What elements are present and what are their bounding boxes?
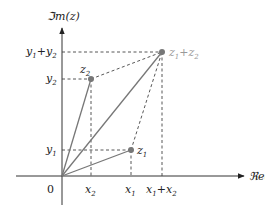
complex-plane-diagram: ℑm(z) ℜe(z) 0 z2 z1 z1+z2 x2 x1 x1+x2 y1… [0, 0, 265, 212]
label-z1: z1 [136, 144, 147, 159]
x-axis-label: ℜe(z) [249, 170, 265, 183]
x-tick-x1-plus-x2: x1+x2 [146, 183, 177, 198]
point-z1 [128, 147, 134, 153]
y-tick-y1: y1 [45, 143, 57, 158]
y-tick-y1-plus-y2: y1+y2 [25, 45, 57, 60]
label-z2: z2 [79, 63, 91, 78]
point-z1-plus-z2 [159, 49, 165, 55]
y-tick-y2: y2 [45, 72, 57, 87]
vector-z2 [62, 79, 91, 176]
x-tick-x2: x2 [85, 183, 96, 198]
label-z1-plus-z2: z1+z2 [168, 46, 199, 61]
x-tick-x1: x1 [125, 183, 136, 198]
y-axis-label: ℑm(z) [47, 10, 80, 23]
origin-label: 0 [47, 183, 54, 196]
